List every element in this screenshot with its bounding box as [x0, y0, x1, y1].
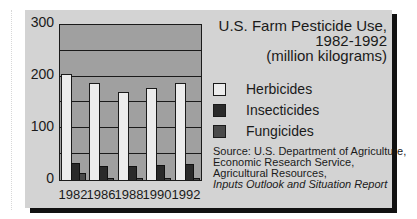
- legend-label: Insecticides: [246, 102, 319, 118]
- x-tick-1990: 1990: [142, 187, 172, 202]
- bar-fungicides-1990: [164, 178, 171, 180]
- chart-title: U.S. Farm Pesticide Use, 1982-1992 (mill…: [210, 18, 387, 63]
- y-tick-300: 300: [24, 14, 54, 30]
- x-tick-1992: 1992: [171, 187, 201, 202]
- x-tick-1986: 1986: [86, 187, 116, 202]
- y-tick-100: 100: [24, 118, 54, 134]
- x-tick-1982: 1982: [58, 187, 88, 202]
- legend-label: Fungicides: [246, 123, 314, 139]
- bar-fungicides-1982: [79, 173, 86, 180]
- legend-label: Herbicides: [246, 81, 312, 97]
- herbicides-swatch-icon: [213, 83, 226, 96]
- y-tick-200: 200: [24, 66, 54, 82]
- x-tick-1988: 1988: [114, 187, 144, 202]
- gridline: [60, 76, 201, 77]
- dotted-margin-line: [11, 10, 12, 210]
- title-line-2: 1982-1992: [210, 33, 387, 48]
- bar-fungicides-1988: [136, 178, 143, 180]
- insecticides-swatch-icon: [213, 104, 226, 117]
- fungicides-swatch-icon: [213, 125, 226, 138]
- source-note: Source: U.S. Department of Agriculture, …: [213, 146, 406, 190]
- title-line-1: U.S. Farm Pesticide Use,: [210, 18, 387, 33]
- source-publication: Inputs Outlook and Situation Report: [213, 179, 406, 190]
- gridline: [60, 50, 201, 51]
- bar-fungicides-1992: [193, 178, 200, 180]
- bar-fungicides-1986: [107, 178, 114, 180]
- y-tick-0: 0: [24, 170, 54, 186]
- plot-area: [59, 24, 202, 181]
- panel-shadow-bottom: [30, 208, 397, 213]
- title-line-3: (million kilograms): [210, 48, 387, 63]
